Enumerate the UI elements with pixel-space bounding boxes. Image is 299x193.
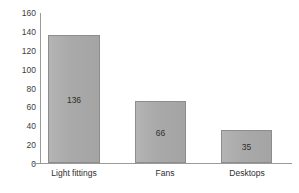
bar-column-fans: 66 bbox=[135, 13, 186, 163]
x-axis-line bbox=[33, 163, 292, 164]
bar-value-fans: 66 bbox=[135, 129, 186, 138]
y-axis-tick-label: 0 bbox=[6, 160, 36, 168]
y-axis-tick-label: 120 bbox=[6, 47, 36, 55]
y-axis-tick-label: 20 bbox=[6, 141, 36, 149]
y-axis-tick-label: 140 bbox=[6, 28, 36, 36]
y-axis-tick-label: 40 bbox=[6, 122, 36, 130]
y-axis-tick-labels: 160 140 120 100 80 60 40 20 0 bbox=[3, 13, 36, 164]
y-axis-tick-label: 60 bbox=[6, 103, 36, 111]
bar-value-desktops: 35 bbox=[221, 143, 272, 152]
x-axis-label-desktops: Desktops bbox=[191, 168, 299, 178]
bar-column-light-fittings: 136 bbox=[48, 13, 100, 163]
bar-column-desktops: 35 bbox=[221, 13, 272, 163]
bar-value-light-fittings: 136 bbox=[48, 96, 100, 105]
y-axis-tick-label: 100 bbox=[6, 66, 36, 74]
bar-chart: 160 140 120 100 80 60 40 20 0 136 66 35 … bbox=[0, 0, 299, 193]
y-axis-tick-label: 160 bbox=[6, 9, 36, 17]
y-axis-tick-label: 80 bbox=[6, 85, 36, 93]
plot-area: 136 66 35 bbox=[40, 13, 292, 163]
